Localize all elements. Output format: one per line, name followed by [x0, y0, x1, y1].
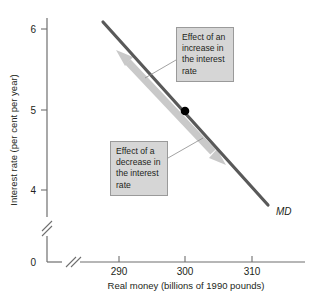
callout-increase-interest-rate: Effect of an increase in the interest ra…	[176, 27, 234, 82]
leader-line-decrease	[168, 138, 203, 158]
y-axis-break-mark	[42, 226, 52, 236]
md-curve-label: MD	[276, 206, 292, 217]
y-tick-label-6: 6	[30, 24, 36, 35]
y-tick-label-0: 0	[30, 257, 36, 268]
y-axis-break-mark	[42, 221, 52, 231]
x-axis-break-mark	[66, 257, 76, 267]
x-axis-title: Real money (billions of 1990 pounds)	[108, 280, 265, 291]
callout-decrease-interest-rate: Effect of a decrease in the interest rat…	[110, 141, 168, 196]
x-axis-break-mark	[71, 257, 81, 267]
y-axis-title: Interest rate (per cent per year)	[8, 74, 19, 205]
x-tick-label-310: 310	[244, 266, 261, 277]
x-tick-label-290: 290	[111, 266, 128, 277]
y-tick-label-4: 4	[30, 185, 36, 196]
leader-line-increase	[145, 60, 176, 78]
money-demand-chart: 6 5 4 0 290 300 310 Real money (billions…	[0, 0, 325, 300]
equilibrium-point	[181, 107, 190, 116]
y-axis	[42, 18, 52, 262]
x-tick-label-300: 300	[177, 266, 194, 277]
y-tick-label-5: 5	[30, 105, 36, 116]
